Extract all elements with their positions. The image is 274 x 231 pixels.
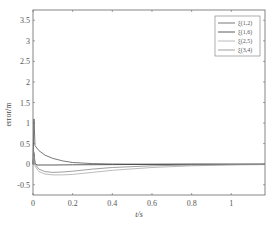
series-line — [33, 156, 265, 175]
y-tick-label: 2.5 — [20, 57, 30, 66]
x-tick-label: 0 — [31, 199, 35, 208]
series-line — [33, 119, 265, 164]
y-tick-label: 0.5 — [20, 140, 30, 149]
y-tick-label: 1.5 — [20, 99, 30, 108]
x-tick-label: 0.4 — [107, 199, 117, 208]
line-chart: 00.20.40.60.81-0.500.511.522.533.5t/serr… — [0, 0, 274, 231]
y-tick-label: 2 — [26, 78, 30, 87]
legend-label: ξ(1,6) — [238, 29, 252, 36]
x-tick-label: 0.8 — [187, 199, 197, 208]
plot-area: 00.20.40.60.81-0.500.511.522.533.5t/serr… — [4, 10, 265, 219]
legend-label: ξ(2,5) — [238, 38, 252, 45]
y-tick-label: 3.5 — [20, 16, 30, 25]
legend-label: ξ(3,4) — [238, 47, 252, 54]
x-tick-label: 0.2 — [68, 199, 78, 208]
y-axis-label: error/m — [4, 102, 13, 127]
y-tick-label: -0.5 — [17, 181, 30, 190]
x-axis-label: t/s — [135, 210, 143, 219]
y-tick-label: 1 — [26, 119, 30, 128]
legend-label: ξ(1,2) — [238, 20, 252, 27]
y-tick-label: 3 — [26, 37, 30, 46]
y-tick-label: 0 — [26, 160, 30, 169]
series-line — [33, 154, 265, 165]
x-tick-label: 1 — [229, 199, 233, 208]
x-tick-label: 0.6 — [147, 199, 157, 208]
